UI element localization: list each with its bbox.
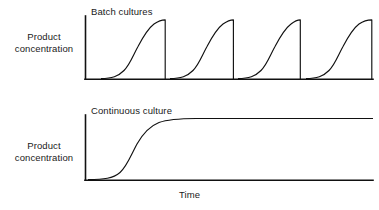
continuous-culture-plot [0,100,379,188]
batch-curve-cycle-1 [101,20,165,79]
batch-curve-cycle-4 [306,20,372,79]
panel-continuous-culture: Product concentration Continuous culture… [0,100,379,210]
batch-cultures-plot [0,0,379,100]
figure-container: Product concentration Batch cultures Pro… [0,0,379,210]
batch-curve-cycle-3 [238,20,300,79]
batch-curve-cycle-2 [170,20,233,79]
continuous-culture-curve [88,119,373,180]
x-axis-label-time: Time [0,189,379,200]
panel-batch-cultures: Product concentration Batch cultures [0,0,379,100]
